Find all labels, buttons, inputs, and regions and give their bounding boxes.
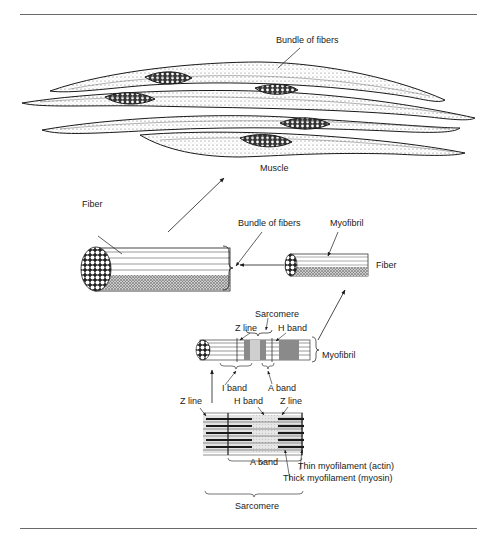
label-h-band-top: H band: [278, 324, 307, 333]
fiber-to-muscle-arrow: [168, 178, 224, 232]
label-z-line-left: Z line: [180, 397, 202, 406]
label-a-band-top: A band: [268, 384, 296, 393]
label-i-band: I band: [222, 384, 247, 393]
label-fiber-right: Fiber: [376, 261, 397, 270]
label-fiber: Fiber: [82, 200, 103, 209]
label-sarcomere-bottom: Sarcomere: [235, 502, 279, 511]
label-thin-myofilament: Thin myofilament (actin): [298, 462, 394, 471]
muscle-illustration: [22, 62, 475, 157]
label-z-line-top: Z line: [235, 324, 257, 333]
small-fiber-illustration: [285, 254, 368, 276]
myofibril-bracket: [312, 337, 319, 362]
myofibril-illustration: [196, 338, 310, 362]
label-bundle-of-fibers: Bundle of fibers: [238, 219, 301, 228]
label-bundle-of-fibers-muscle: Bundle of fibers: [276, 36, 339, 45]
muscle-structure-diagram: Bundle of fibers Muscle Fiber Bundle of …: [0, 0, 498, 542]
label-muscle: Muscle: [260, 164, 289, 173]
i-band-bracket: [220, 363, 252, 369]
label-thick-myofilament: Thick myofilament (myosin): [283, 474, 393, 483]
label-z-line-right: Z line: [280, 397, 302, 406]
sarcomere-bottom-bracket: [205, 491, 303, 497]
bundle-of-fibers-arrow: [236, 232, 262, 266]
fiber-cylinder-illustration: [81, 247, 230, 291]
myofibril-leader-arrow: [328, 232, 338, 256]
label-myofibril-right: Myofibril: [322, 351, 356, 360]
label-h-band-bottom: H band: [234, 397, 263, 406]
sarcomere-illustration: [203, 413, 304, 455]
label-a-band-bottom: A band: [250, 458, 278, 467]
myofibril-to-fiber-arrow: [318, 290, 345, 340]
diagram-artwork: [0, 0, 498, 542]
label-myofibril-top: Myofibril: [330, 219, 364, 228]
label-sarcomere-top: Sarcomere: [255, 310, 299, 319]
